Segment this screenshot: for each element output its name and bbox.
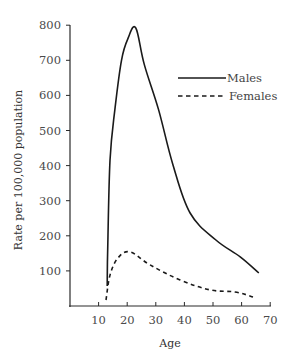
legend: Males Females <box>178 71 277 103</box>
series-line-males <box>107 27 259 286</box>
y-tick-label: 400 <box>39 159 61 173</box>
x-tick-label: 20 <box>120 313 135 327</box>
x-axis-title: Age <box>158 337 181 350</box>
y-tick-label: 100 <box>39 264 61 278</box>
x-tick-label: 50 <box>206 313 221 327</box>
legend-label-females: Females <box>229 89 277 103</box>
y-tick-label: 800 <box>39 18 61 32</box>
x-tick-label: 70 <box>263 313 278 327</box>
x-axis: 10203040506070 <box>69 302 278 327</box>
line-chart: 100200300400500600700800 10203040506070 … <box>0 0 292 364</box>
y-tick-label: 500 <box>39 124 61 138</box>
y-tick-label: 200 <box>39 229 61 243</box>
y-tick-label: 700 <box>39 53 61 67</box>
series-layer <box>106 27 259 300</box>
y-tick-label: 600 <box>39 88 61 102</box>
legend-label-males: Males <box>227 71 262 85</box>
x-tick-label: 10 <box>91 313 106 327</box>
x-tick-label: 40 <box>177 313 192 327</box>
x-tick-label: 30 <box>148 313 163 327</box>
y-tick-label: 300 <box>39 194 61 208</box>
x-tick-label: 60 <box>234 313 249 327</box>
y-axis: 100200300400500600700800 <box>39 18 70 307</box>
series-line-females <box>106 252 253 300</box>
y-axis-title: Rate per 100,000 population <box>12 90 25 250</box>
